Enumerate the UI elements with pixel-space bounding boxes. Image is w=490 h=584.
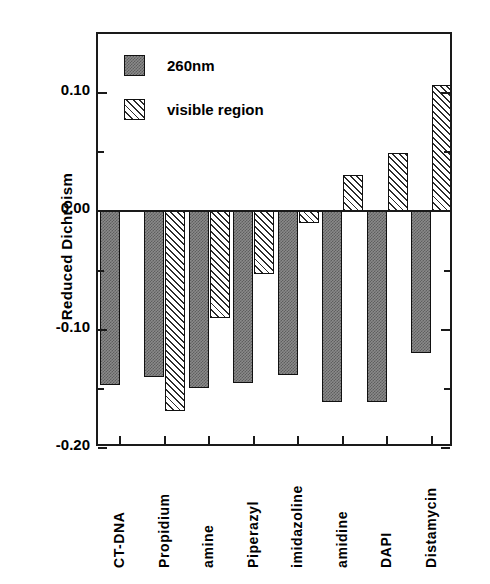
x-axis-tick <box>342 436 344 444</box>
y-axis-tick-major <box>98 210 107 212</box>
y-axis-tick-major <box>441 92 450 94</box>
x-axis-tick <box>386 436 388 444</box>
x-axis-tick-label: Piperazyl <box>245 501 261 568</box>
bar-amidine-260nm <box>322 211 342 401</box>
legend-item: 260nm <box>124 54 264 76</box>
y-axis-tick-major <box>441 329 450 331</box>
bar-piperazyl-260nm <box>233 211 253 383</box>
y-axis-tick-label: 0.10 <box>4 81 90 98</box>
legend-swatch-260nm <box>124 55 145 76</box>
legend-label: visible region <box>167 101 264 118</box>
bar-amine-260nm <box>189 211 209 387</box>
bar-imidazoline-260nm <box>278 211 298 374</box>
bar-propidium-260nm <box>144 211 164 377</box>
y-axis-tick-minor <box>98 388 104 390</box>
y-axis-tick-major <box>98 92 107 94</box>
y-axis-tick-minor <box>444 388 450 390</box>
bar-amine-visible-region <box>210 211 230 317</box>
legend-label: 260nm <box>167 57 215 74</box>
y-axis-tick-major <box>98 329 107 331</box>
zero-baseline <box>98 210 450 212</box>
x-axis-tick <box>431 436 433 444</box>
y-axis-tick-label: -0.20 <box>4 436 90 453</box>
y-axis-tick-minor <box>98 151 104 153</box>
y-axis-tick-major <box>441 210 450 212</box>
x-axis-tick-label: imidazoline <box>289 485 305 568</box>
bar-dapi-260nm <box>367 211 387 401</box>
x-axis-tick <box>164 436 166 444</box>
legend-item: visible region <box>124 98 264 120</box>
x-axis-tick-label: Propidium <box>156 493 172 568</box>
y-axis-title: Reduced Dichroism <box>58 117 75 377</box>
x-axis-tick <box>208 436 210 444</box>
x-axis-tick-label: amine <box>200 525 216 568</box>
y-axis-tick-minor <box>98 270 104 272</box>
bar-imidazoline-visible-region <box>299 211 319 223</box>
bar-piperazyl-visible-region <box>254 211 274 274</box>
x-axis-tick <box>297 436 299 444</box>
y-axis-tick-major <box>98 447 107 449</box>
x-axis-tick-label: amidine <box>334 511 350 568</box>
bar-propidium-visible-region <box>165 211 185 411</box>
x-axis-tick <box>119 436 121 444</box>
x-axis-tick-label: Distamycin <box>423 487 439 568</box>
y-axis-tick-minor <box>444 151 450 153</box>
bar-amidine-visible-region <box>343 175 363 212</box>
bar-distamycin-visible-region <box>432 85 450 212</box>
x-axis-tick-label: DAPI <box>378 532 394 568</box>
x-axis-tick <box>253 436 255 444</box>
y-axis-tick-label: 0.00 <box>4 199 90 216</box>
chart-figure: Reduced Dichroism 0.100.00-0.10-0.20 CT-… <box>0 0 490 584</box>
bar-distamycin-260nm <box>411 211 431 353</box>
bar-dapi-visible-region <box>388 153 408 211</box>
chart-legend: 260nm visible region <box>124 54 264 142</box>
legend-swatch-visible-region <box>124 99 145 120</box>
x-axis-tick-label: CT-DNA <box>111 512 127 568</box>
y-axis-tick-minor <box>444 270 450 272</box>
bar-ct-dna-260nm <box>100 211 120 385</box>
y-axis-tick-label: -0.10 <box>4 318 90 335</box>
y-axis-tick-major <box>441 447 450 449</box>
